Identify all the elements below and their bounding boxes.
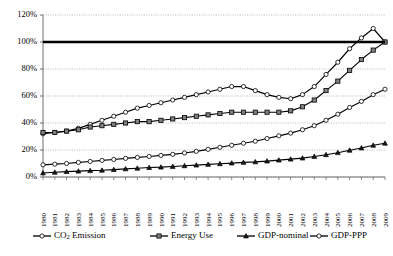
data-point-marker	[40, 234, 44, 238]
data-point-marker	[265, 110, 269, 114]
legend-label: Energy Use	[171, 230, 213, 240]
data-point-marker	[159, 153, 163, 157]
data-point-marker	[336, 79, 340, 83]
data-point-marker	[100, 124, 104, 128]
data-point-marker	[359, 57, 363, 61]
data-point-marker	[371, 26, 375, 30]
x-tick-label: 2003	[311, 213, 319, 228]
x-tick-label: 1981	[51, 213, 59, 228]
data-point-marker	[253, 110, 257, 114]
data-point-marker	[324, 72, 328, 76]
x-tick-label: 1980	[40, 213, 48, 228]
data-point-marker	[112, 114, 116, 118]
x-tick-label: 1990	[158, 213, 166, 228]
x-tick-label: 2000	[275, 213, 283, 228]
legend-label: GDP-nominal	[258, 230, 309, 240]
x-tick-label: 1989	[146, 213, 154, 228]
data-point-marker	[194, 114, 198, 118]
data-point-marker	[147, 154, 151, 158]
data-point-marker	[159, 118, 163, 122]
data-point-marker	[53, 130, 57, 134]
data-point-marker	[324, 118, 328, 122]
data-point-marker	[147, 120, 151, 124]
data-point-marker	[371, 93, 375, 97]
data-point-marker	[218, 111, 222, 115]
data-point-marker	[241, 141, 245, 145]
data-point-marker	[277, 134, 281, 138]
legend-label: GDP-PPP	[331, 230, 367, 240]
data-point-marker	[359, 36, 363, 40]
x-tick-label: 1988	[134, 213, 142, 228]
data-point-marker	[123, 121, 127, 125]
data-point-marker	[206, 90, 210, 94]
x-tick-label: 1992	[181, 213, 189, 228]
data-point-marker	[135, 155, 139, 159]
data-point-marker	[218, 87, 222, 91]
x-tick-label: 1984	[87, 213, 95, 228]
data-point-marker	[159, 101, 163, 105]
data-point-marker	[241, 110, 245, 114]
x-tick-label: 2006	[346, 213, 354, 228]
x-tick-label: 2004	[323, 213, 331, 228]
line-chart: 0%20%40%60%80%100%120%198019811982198319…	[0, 0, 393, 256]
series-line	[43, 143, 385, 173]
x-tick-label: 1994	[205, 213, 213, 228]
x-tick-label: 2009	[382, 213, 390, 228]
data-point-marker	[157, 234, 161, 238]
series-line	[43, 42, 385, 132]
legend-item-co2-emission[interactable]: CO2 Emission	[33, 230, 106, 241]
series-gdp-nominal	[41, 141, 388, 175]
data-point-marker	[312, 124, 316, 128]
x-tick-label: 1983	[75, 213, 83, 228]
data-point-marker	[64, 129, 68, 133]
x-tick-label: 2005	[334, 213, 342, 228]
data-point-marker	[300, 128, 304, 132]
data-point-marker	[371, 48, 375, 52]
x-tick-label: 1996	[228, 213, 236, 228]
data-point-marker	[206, 113, 210, 117]
x-tick-label: 1998	[252, 213, 260, 228]
data-point-marker	[88, 125, 92, 129]
series-energy-use	[41, 40, 387, 135]
legend-item-energy-use[interactable]: Energy Use	[150, 230, 213, 240]
data-point-marker	[336, 60, 340, 64]
data-point-marker	[182, 116, 186, 120]
data-point-marker	[76, 128, 80, 132]
data-point-marker	[277, 95, 281, 99]
y-tick-label: 60%	[21, 90, 37, 100]
data-point-marker	[194, 149, 198, 153]
x-tick-label: 1997	[240, 213, 248, 228]
data-point-marker	[112, 157, 116, 161]
y-tick-label: 40%	[21, 117, 37, 127]
data-point-marker	[289, 97, 293, 101]
legend-label: CO2 Emission	[54, 230, 106, 241]
data-point-marker	[135, 106, 139, 110]
data-point-marker	[277, 110, 281, 114]
data-point-marker	[182, 151, 186, 155]
data-point-marker	[265, 93, 269, 97]
data-point-marker	[41, 163, 45, 167]
data-point-marker	[253, 89, 257, 93]
data-point-marker	[312, 98, 316, 102]
data-point-marker	[230, 110, 234, 114]
x-tick-label: 2008	[370, 213, 378, 228]
data-point-marker	[300, 93, 304, 97]
data-point-marker	[76, 160, 80, 164]
data-point-marker	[194, 93, 198, 97]
chart-container: 0%20%40%60%80%100%120%198019811982198319…	[0, 0, 393, 256]
x-tick-label: 2007	[358, 213, 366, 228]
data-point-marker	[218, 145, 222, 149]
legend-item-gdp-ppp[interactable]: GDP-PPP	[310, 230, 367, 240]
data-point-marker	[88, 159, 92, 163]
data-point-marker	[171, 117, 175, 121]
data-point-marker	[253, 139, 257, 143]
x-tick-label: 1999	[264, 213, 272, 228]
legend-item-gdp-nominal[interactable]: GDP-nominal	[237, 230, 309, 240]
data-point-marker	[206, 147, 210, 151]
data-point-marker	[230, 84, 234, 88]
data-point-marker	[300, 105, 304, 109]
data-point-marker	[135, 120, 139, 124]
data-point-marker	[100, 158, 104, 162]
x-tick-label: 2001	[287, 213, 295, 228]
data-point-marker	[348, 47, 352, 51]
